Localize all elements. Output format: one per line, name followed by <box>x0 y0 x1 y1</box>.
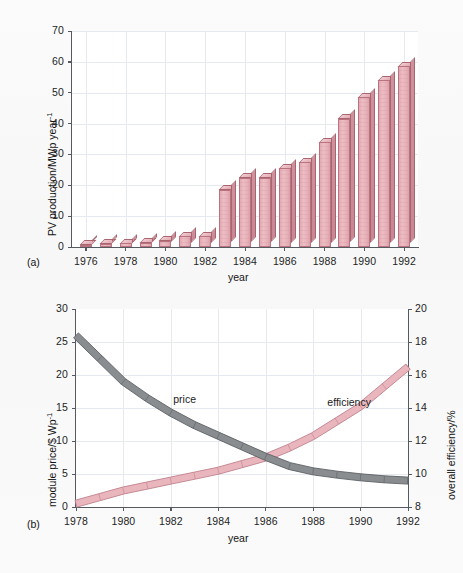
gridline-v <box>218 309 219 507</box>
panel-b-curves <box>0 0 463 288</box>
panel-b-right-y-axis-title: overall efficiency/% <box>445 410 457 500</box>
y-tick-label-left: 5 <box>36 467 68 479</box>
x-tick-label: 1982 <box>147 515 195 527</box>
y-tick-right <box>408 309 412 310</box>
x-tick-label: 1978 <box>52 515 100 527</box>
x-tick <box>170 507 171 511</box>
y-tick-right <box>408 342 412 343</box>
x-tick-label: 1984 <box>194 515 242 527</box>
gridline-v <box>266 309 267 507</box>
y-tick-left <box>72 342 76 343</box>
x-tick-label: 1988 <box>289 515 337 527</box>
y-tick-label-right: 20 <box>415 302 427 314</box>
gridline-h <box>76 342 408 343</box>
y-tick-right <box>408 474 412 475</box>
y-tick-left <box>72 309 76 310</box>
gridline-h <box>76 441 408 442</box>
gridline-h <box>76 375 408 376</box>
y-tick-left <box>72 408 76 409</box>
y-tick-label-left: 20 <box>36 368 68 380</box>
x-tick <box>76 507 77 511</box>
x-tick <box>218 507 219 511</box>
x-tick-label: 1980 <box>99 515 147 527</box>
x-tick-label: 1986 <box>242 515 290 527</box>
y-tick-label-left: 30 <box>36 302 68 314</box>
x-tick <box>265 507 266 511</box>
x-tick <box>313 507 314 511</box>
panel-b-left-y-axis-title: module price/$ Wp-1 <box>46 413 58 507</box>
x-tick-label: 1990 <box>337 515 385 527</box>
y-tick-right <box>408 408 412 409</box>
curve-label-price: price <box>173 393 196 405</box>
panel-b-x-axis-title: year <box>228 532 248 544</box>
y-tick-label-right: 12 <box>415 434 427 446</box>
figure-container: PV production/MWp year-1 010203040506070… <box>0 0 463 573</box>
y-tick-label-right: 10 <box>415 467 427 479</box>
panel-b: module price/$ Wp-1 overall efficiency/%… <box>0 285 463 573</box>
panel-b-x-axis-line <box>75 507 409 508</box>
y-tick-right <box>408 441 412 442</box>
y-tick-left <box>72 474 76 475</box>
panel-b-left-y-axis-title-sup: -1 <box>45 413 54 420</box>
x-tick-label: 1992 <box>384 515 432 527</box>
y-tick-left <box>72 441 76 442</box>
y-tick-label-right: 14 <box>415 401 427 413</box>
y-tick-label-left: 10 <box>36 434 68 446</box>
y-tick-label-left: 25 <box>36 335 68 347</box>
y-tick-label-right: 8 <box>415 500 421 512</box>
x-tick <box>123 507 124 511</box>
y-tick-label-right: 18 <box>415 335 427 347</box>
curve-label-efficiency: efficiency <box>327 396 371 408</box>
y-tick-left <box>72 375 76 376</box>
panel-b-tag: (b) <box>27 518 40 530</box>
panel-b-left-y-axis-title-text: module price/$ Wp <box>46 419 58 507</box>
gridline-v <box>123 309 124 507</box>
x-tick <box>408 507 409 511</box>
y-tick-label-left: 15 <box>36 401 68 413</box>
x-tick <box>360 507 361 511</box>
y-tick-label-left: 0 <box>36 500 68 512</box>
y-tick-right <box>408 375 412 376</box>
y-tick-label-right: 16 <box>415 368 427 380</box>
gridline-v <box>313 309 314 507</box>
